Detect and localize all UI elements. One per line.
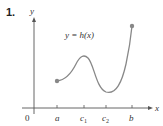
problem-number: 1.: [6, 6, 15, 18]
x-axis-label: x: [154, 103, 159, 113]
origin-label: 0: [25, 113, 30, 123]
tick-label-c1: c1: [80, 113, 87, 124]
function-label: y = h(x): [64, 30, 94, 40]
tick-label-c2: c2: [102, 113, 109, 124]
y-axis-label: y: [29, 6, 34, 16]
y-axis-arrow-icon: [32, 17, 36, 22]
endpoint-b: [130, 24, 134, 28]
tick-label-a: a: [55, 113, 60, 123]
tick-label-b: b: [129, 113, 134, 123]
graph-figure: 1. y x 0 a c1 c2 b y = h(x): [0, 0, 163, 126]
endpoint-a: [55, 79, 59, 83]
x-axis-arrow-icon: [148, 106, 153, 110]
